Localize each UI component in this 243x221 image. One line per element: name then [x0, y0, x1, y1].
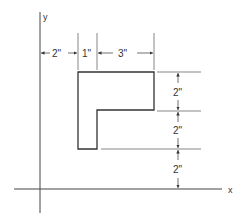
dim-label-2in-bottom: 2"	[173, 164, 183, 175]
dim-label-2in-top: 2"	[173, 87, 183, 98]
dim-label-2in-horizontal: 2"	[52, 48, 62, 59]
dim-label-3in: 3"	[118, 48, 128, 59]
x-axis-label: x	[228, 185, 233, 195]
dim-label-1in: 1"	[82, 48, 92, 59]
l-shape-outline	[78, 72, 154, 149]
dim-label-2in-middle: 2"	[173, 125, 183, 136]
y-axis-label: y	[43, 12, 48, 22]
l-shape-diagram: y x 2" 1" 3" 2" 2" 2"	[0, 0, 243, 221]
